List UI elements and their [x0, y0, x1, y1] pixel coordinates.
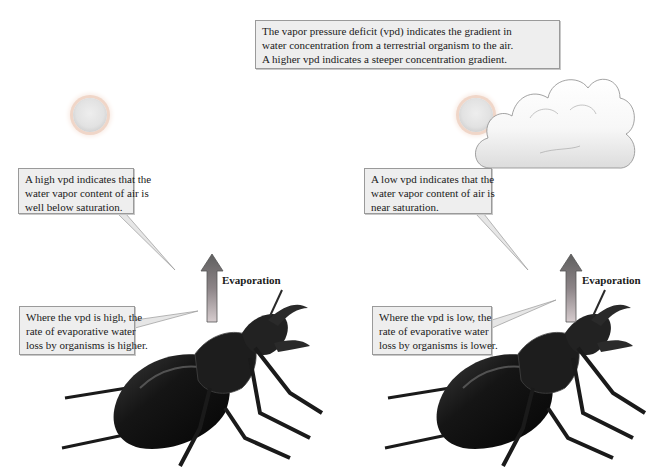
- low-vpd-air-callout: A low vpd indicates that the water vapor…: [364, 168, 492, 214]
- callout-line: Where the vpd is high, the: [26, 310, 128, 324]
- callout-line: water concentration from a terrestrial o…: [262, 38, 553, 52]
- evaporation-label: Evaporation: [582, 274, 641, 286]
- callout-line: loss by organisms is higher.: [26, 338, 128, 352]
- callout-line: A high vpd indicates that the: [25, 172, 127, 186]
- evaporation-label: Evaporation: [222, 274, 281, 286]
- callout-line: A higher vpd indicates a steeper concent…: [262, 52, 553, 66]
- arrow-up-icon: [200, 253, 224, 323]
- sun-icon: [73, 98, 107, 132]
- vpd-diagram: The vapor pressure deficit (vpd) indicat…: [0, 0, 663, 472]
- callout-line: water vapor content of air is: [25, 186, 127, 200]
- low-vpd-organism-callout: Where the vpd is low, the rate of evapor…: [372, 306, 492, 355]
- vpd-definition-callout: The vapor pressure deficit (vpd) indicat…: [255, 20, 560, 69]
- arrow-up-icon: [559, 253, 583, 323]
- callout-line: well below saturation.: [25, 200, 127, 214]
- callout-line: Where the vpd is low, the: [379, 310, 485, 324]
- callout-line: loss by organisms is lower.: [379, 338, 485, 352]
- callout-line: rate of evaporative water: [379, 324, 485, 338]
- callout-line: The vapor pressure deficit (vpd) indicat…: [262, 24, 553, 38]
- callout-line: water vapor content of air is: [371, 186, 485, 200]
- callout-line: rate of evaporative water: [26, 324, 128, 338]
- high-vpd-air-callout: A high vpd indicates that the water vapo…: [18, 168, 134, 214]
- callout-line: near saturation.: [371, 200, 485, 214]
- callout-line: A low vpd indicates that the: [371, 172, 485, 186]
- cloud-icon: [470, 68, 640, 178]
- high-vpd-organism-callout: Where the vpd is high, the rate of evapo…: [19, 306, 135, 355]
